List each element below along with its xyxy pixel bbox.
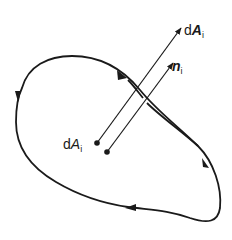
area-element-label: dAi [63,136,82,154]
normal-vector-arrow [107,63,173,152]
normal-vector-label-symbol: n [172,58,181,74]
area-element-label-subscript: i [80,144,82,154]
area-vector-label: dAi [184,22,204,40]
area-vector-label-prefix: d [184,22,192,38]
normal-origin-point [104,149,110,155]
normal-vector-label: ni [172,58,183,76]
area-vector-arrow [97,28,181,143]
normal-vector-label-subscript: i [181,66,183,76]
curve-direction-arrow-bottom [125,204,136,211]
area-vector-label-symbol: A [192,22,202,38]
area-element-label-symbol: A [71,136,80,152]
area-element-point [94,140,100,146]
area-vector-label-subscript: i [202,30,204,40]
curve-direction-arrow-left [15,91,21,102]
area-element-label-prefix: d [63,136,71,152]
